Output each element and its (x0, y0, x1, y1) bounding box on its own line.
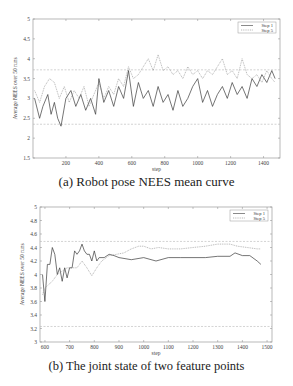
y-tick-label: 4.6 (30, 231, 37, 237)
x-tick-label: 1500 (262, 344, 273, 350)
y-tick-label: 4.2 (30, 258, 37, 264)
chart-b-plot: 33.23.43.63.844.24.44.64.856007008009001… (0, 195, 293, 360)
x-tick-label: 1400 (258, 160, 269, 166)
y-tick-label: 4.4 (30, 245, 37, 251)
y-tick-label: 3.2 (30, 326, 37, 332)
chart-a-plot: 1.522.533.544.55200400600800100012001400… (0, 0, 293, 170)
y-tick-label: 1.5 (23, 155, 30, 161)
x-axis-label: step (152, 166, 161, 172)
y-tick-label: 2 (27, 135, 30, 141)
y-axis-label: Average NEES over 50 runs (12, 57, 18, 119)
x-tick-label: 600 (41, 344, 50, 350)
plot-frame (40, 207, 272, 342)
x-tick-label: 1400 (237, 344, 248, 350)
x-tick-label: 1300 (212, 344, 223, 350)
y-tick-label: 4.5 (23, 36, 30, 42)
caption-b: (b) The joint state of two feature point… (0, 359, 293, 374)
x-tick-label: 200 (62, 160, 71, 166)
y-tick-label: 5 (34, 204, 37, 210)
y-tick-label: 3 (34, 339, 37, 345)
figure-a: 1.522.533.544.55200400600800100012001400… (0, 0, 293, 195)
y-tick-label: 4 (27, 56, 30, 62)
y-tick-label: 3.4 (30, 312, 37, 318)
x-tick-label: 400 (95, 160, 104, 166)
caption-a: (a) Robot pose NEES mean curve (0, 174, 293, 190)
y-tick-label: 2.5 (23, 115, 30, 121)
x-tick-label: 700 (65, 344, 74, 350)
y-tick-label: 3.5 (23, 76, 30, 82)
legend-entry: Step 5 (254, 216, 266, 221)
x-tick-label: 1200 (225, 160, 236, 166)
x-tick-label: 900 (115, 344, 124, 350)
y-tick-label: 3.6 (30, 299, 37, 305)
y-axis-label: Average NEES over 50 runs (19, 243, 25, 305)
x-tick-label: 600 (128, 160, 137, 166)
y-tick-label: 4.8 (30, 218, 37, 224)
x-tick-label: 1000 (138, 344, 149, 350)
legend-entry: Step 5 (262, 28, 274, 33)
y-tick-label: 4 (34, 272, 37, 278)
y-tick-label: 5 (27, 16, 30, 22)
x-tick-label: 1100 (163, 344, 174, 350)
y-tick-label: 3 (27, 95, 30, 101)
y-tick-label: 3.8 (30, 285, 37, 291)
x-tick-label: 1200 (188, 344, 199, 350)
x-axis-label: step (152, 350, 161, 356)
figure-b: 33.23.43.63.844.24.44.64.856007008009001… (0, 195, 293, 386)
x-tick-label: 800 (90, 344, 99, 350)
x-tick-label: 1000 (192, 160, 203, 166)
x-tick-label: 800 (161, 160, 170, 166)
